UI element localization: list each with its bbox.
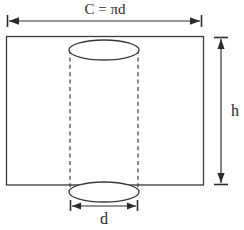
circumference-label: C = πd xyxy=(84,1,126,17)
height-top-arrowhead-icon xyxy=(217,39,224,49)
cylinder-net-diagram: C = πd h d xyxy=(0,0,244,230)
circumference-right-arrowhead-icon xyxy=(190,17,200,25)
cylinder-top-circle xyxy=(69,40,139,60)
diagram-canvas: C = πd h d xyxy=(0,0,244,230)
height-label: h xyxy=(231,102,239,119)
circumference-dimension: C = πd xyxy=(8,1,202,27)
height-dimension: h xyxy=(214,38,239,185)
height-bottom-arrowhead-icon xyxy=(217,173,224,183)
diameter-dimension: d xyxy=(71,200,138,227)
cylinder-bottom-circle xyxy=(69,182,139,202)
diameter-label: d xyxy=(100,210,108,227)
diameter-right-arrowhead-icon xyxy=(127,203,136,210)
circumference-left-arrowhead-icon xyxy=(9,17,19,25)
diameter-left-arrowhead-icon xyxy=(72,203,81,210)
